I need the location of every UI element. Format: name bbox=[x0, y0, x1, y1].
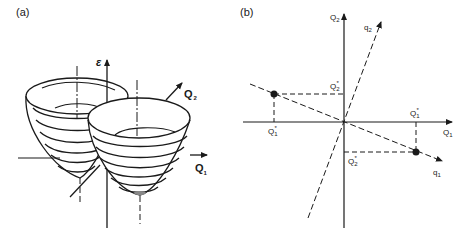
panel-b: (b) Q2 Q1 q1 q2 Q1* Q2* Q1* Q2* bbox=[240, 6, 453, 228]
upper-q2-star-label: Q2* bbox=[330, 80, 340, 92]
q2-axis bbox=[166, 83, 182, 100]
left-minimum-point bbox=[271, 91, 278, 98]
panel-a: (a) ε bbox=[16, 6, 208, 228]
Q2-axis-label: Q2 bbox=[330, 13, 340, 23]
q2-axis-label: Q2 bbox=[184, 88, 198, 101]
panel-a-label: (a) bbox=[16, 6, 29, 18]
panel-b-label: (b) bbox=[240, 6, 253, 18]
q2-axis-label: q2 bbox=[364, 23, 372, 33]
lower-q2-star-label: Q2* bbox=[348, 155, 358, 167]
figure: (a) ε bbox=[0, 0, 469, 238]
right-q1-star-label: Q1* bbox=[410, 107, 420, 119]
left-q1-star-label: Q1* bbox=[268, 125, 278, 137]
right-minimum-point bbox=[413, 149, 420, 156]
q2-axis-back bbox=[70, 165, 100, 197]
Q1-axis-label: Q1 bbox=[443, 128, 453, 138]
q1-axis-label: q1 bbox=[433, 168, 441, 178]
q1-axis-label: Q1 bbox=[195, 162, 208, 176]
energy-axis-label: ε bbox=[96, 56, 102, 68]
